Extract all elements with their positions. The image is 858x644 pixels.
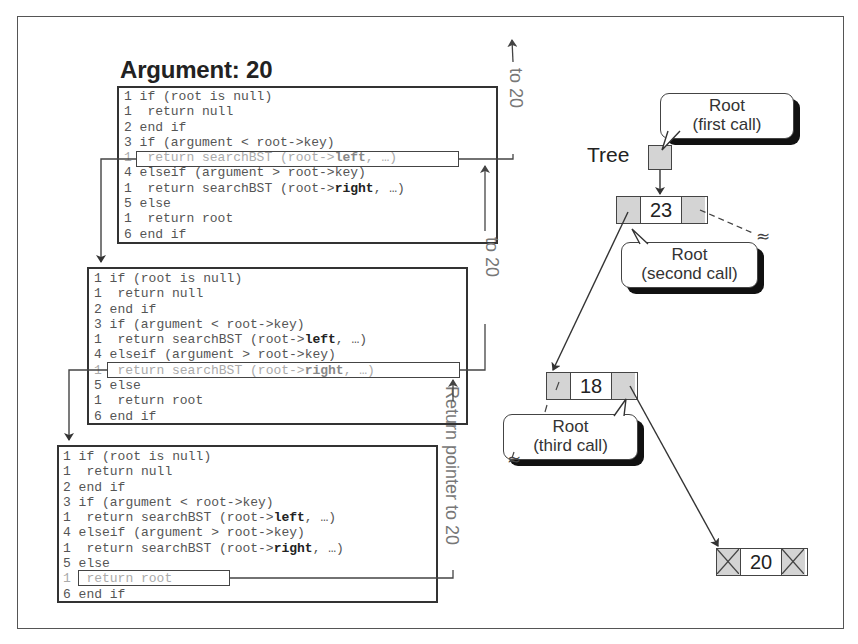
left-pointer-null [547,373,571,399]
code-line: 6 end if [63,587,344,602]
code-line: 1 if (root is null) [63,449,344,464]
callout-line2: (third call) [504,436,637,455]
argument-title: Argument: 20 [120,56,272,84]
right-pointer [681,197,705,223]
code-line: 1 if (root is null) [94,271,375,286]
code-line: 4 elseif (argument > root->key) [94,347,375,362]
code-line: 1 if (root is null) [124,89,405,104]
code-line: 1 return searchBST (root->left, …) [94,332,375,347]
callout-line1: Root [661,96,793,115]
callout-line2: (first call) [661,115,793,134]
tree-root-pointer [648,145,672,170]
right-null-pointer-icon [781,549,805,575]
code-line: 3 if (argument < root->key) [124,135,405,150]
code-line: 6 end if [124,227,405,242]
code-line: 1 return null [94,286,375,301]
callout-root-third-call: Root (third call) [503,414,638,460]
recursive-bst-search-diagram: Argument: 20 1 if (root is null)1 return… [0,0,858,644]
callout-line1: Root [622,245,757,264]
code-line: 5 else [124,196,405,211]
code-line: 1 return root [124,211,405,226]
node-key: 18 [571,373,611,399]
tree-node-23: 23 [616,196,708,224]
node-key: 23 [641,197,681,223]
code-line: 1 return searchBST (root->right, …) [63,541,344,556]
left-pointer [617,197,641,223]
code-line: 4 elseif (argument > root->key) [63,525,344,540]
tree-label: Tree [587,143,629,167]
code-line: 1 return searchBST (root->left, …) [63,510,344,525]
return-label-third-call: Return pointer to 20 [441,386,462,545]
break-symbol-left-subtree: ≈ [507,449,521,469]
tree-node-20: 20 [716,548,808,576]
break-symbol-right-subtree: ≈ [756,226,770,246]
code-line: 3 if (argument < root->key) [63,495,344,510]
code-line: 2 end if [63,480,344,495]
node-key: 20 [741,549,781,575]
callout-line2: (second call) [622,264,757,283]
return-label-second-call: to 20 [481,237,502,277]
return-label-first-call: to 20 [505,68,526,108]
callout-root-second-call: Root (second call) [621,242,758,288]
code-line: 1 return null [124,104,405,119]
code-line: 2 end if [124,120,405,135]
code-line: 3 if (argument < root->key) [94,317,375,332]
right-pointer [611,373,635,399]
code-listing-second-call: 1 if (root is null)1 return null2 end if… [94,271,375,424]
callout-line1: Root [504,417,637,436]
code-line: 1 return root [94,393,375,408]
tree-node-18: 18 [546,372,638,400]
callout-root-first-call: Root (first call) [660,93,794,139]
code-line: 6 end if [94,409,375,424]
code-line: 1 return searchBST (root->right, …) [124,181,405,196]
highlight-first-call [136,151,459,167]
left-null-pointer-icon [717,549,741,575]
code-line: 2 end if [94,302,375,317]
code-line: 4 elseif (argument > root->key) [124,165,405,180]
highlight-third-call [78,570,230,586]
code-line: 5 else [94,378,375,393]
code-line: 1 return null [63,464,344,479]
highlight-second-call [107,362,460,378]
